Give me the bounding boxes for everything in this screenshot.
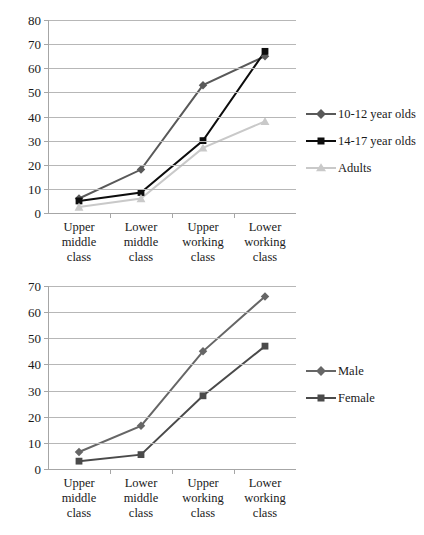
x-category-label: Lowerworkingclass: [234, 476, 296, 520]
x-tick: [172, 469, 173, 474]
gridline: [48, 165, 296, 166]
x-category-label-line: working: [234, 491, 296, 506]
gridline: [48, 286, 296, 287]
x-category-label-line: class: [110, 506, 172, 521]
data-point-marker: [75, 448, 84, 457]
x-axis-labels-top: UppermiddleclassLowermiddleclassUpperwor…: [48, 220, 296, 264]
x-tick: [172, 213, 173, 218]
legend-marker-diamond-icon: [316, 109, 326, 119]
legend-marker-triangle-icon: [316, 163, 326, 171]
legend-label: Adults: [338, 161, 371, 176]
series-line: [79, 296, 265, 452]
legend-item[interactable]: Female: [306, 391, 375, 405]
data-point-marker: [138, 451, 145, 458]
legend-marker-square-icon: [318, 138, 325, 145]
series-line: [79, 56, 265, 198]
x-category-label-line: Upper: [172, 476, 234, 491]
data-point-marker: [76, 458, 83, 465]
gridline: [48, 189, 296, 190]
y-axis-line: [48, 286, 49, 469]
legend-item[interactable]: 10-12 year olds: [306, 107, 416, 121]
x-category-label-line: Lower: [234, 476, 296, 491]
x-category-label-line: class: [234, 250, 296, 265]
x-category-label-line: class: [48, 250, 110, 265]
gridline: [48, 417, 296, 418]
chart-gender: 706050403020100 UppermiddleclassLowermid…: [0, 268, 424, 535]
y-axis-line: [48, 20, 49, 213]
legend-item[interactable]: Adults: [306, 161, 416, 175]
legend-swatch: [306, 107, 336, 121]
gridline: [48, 391, 296, 392]
x-category-label-line: Lower: [110, 220, 172, 235]
x-category-label-line: Lower: [110, 476, 172, 491]
x-category-label: Upperworkingclass: [172, 476, 234, 520]
x-category-label: Lowerworkingclass: [234, 220, 296, 264]
plot-area-bottom: [48, 286, 296, 469]
x-category-label: Uppermiddleclass: [48, 476, 110, 520]
legend-swatch: [306, 391, 336, 405]
x-category-label-line: class: [48, 506, 110, 521]
legend-top: 10-12 year olds14-17 year oldsAdults: [306, 107, 416, 188]
legend-swatch: [306, 364, 336, 378]
data-point-marker: [262, 48, 269, 55]
gridline: [48, 141, 296, 142]
x-category-label: Upperworkingclass: [172, 220, 234, 264]
x-category-label-line: middle: [110, 235, 172, 250]
gridline: [48, 44, 296, 45]
legend-marker-diamond-icon: [316, 366, 326, 376]
legend-label: 14-17 year olds: [338, 134, 416, 149]
y-tick: [44, 213, 48, 214]
x-tick: [234, 469, 235, 474]
legend-label: Female: [338, 391, 375, 406]
x-category-label: Uppermiddleclass: [48, 220, 110, 264]
legend-bottom: MaleFemale: [306, 364, 375, 418]
x-category-label-line: working: [234, 235, 296, 250]
x-category-label-line: working: [172, 235, 234, 250]
x-category-label-line: class: [172, 506, 234, 521]
gridline: [48, 364, 296, 365]
x-category-label: Lowermiddleclass: [110, 476, 172, 520]
legend-item[interactable]: Male: [306, 364, 375, 378]
x-category-label-line: Upper: [48, 476, 110, 491]
x-category-label-line: Upper: [172, 220, 234, 235]
legend-swatch: [306, 134, 336, 148]
data-point-marker: [261, 117, 270, 125]
x-tick: [110, 469, 111, 474]
gridline: [48, 312, 296, 313]
x-tick: [234, 213, 235, 218]
gridline: [48, 68, 296, 69]
x-category-label-line: middle: [110, 491, 172, 506]
legend-swatch: [306, 161, 336, 175]
legend-label: Male: [338, 364, 364, 379]
x-category-label-line: middle: [48, 235, 110, 250]
gridline: [48, 20, 296, 21]
plot-area-top: [48, 20, 296, 213]
legend-label: 10-12 year olds: [338, 107, 416, 122]
x-category-label-line: middle: [48, 491, 110, 506]
x-category-label-line: class: [172, 250, 234, 265]
gridline: [48, 117, 296, 118]
x-tick: [110, 213, 111, 218]
x-category-label-line: Upper: [48, 220, 110, 235]
data-point-marker: [200, 392, 207, 399]
x-category-label: Lowermiddleclass: [110, 220, 172, 264]
x-category-label-line: Lower: [234, 220, 296, 235]
legend-item[interactable]: 14-17 year olds: [306, 134, 416, 148]
data-point-marker: [262, 343, 269, 350]
x-category-label-line: class: [234, 506, 296, 521]
gridline: [48, 92, 296, 93]
x-category-label-line: class: [110, 250, 172, 265]
gridline: [48, 443, 296, 444]
legend-marker-square-icon: [318, 395, 325, 402]
x-category-label-line: working: [172, 491, 234, 506]
series-line: [79, 346, 265, 461]
chart-age-groups: 80706050403020100 UppermiddleclassLowerm…: [0, 0, 424, 268]
y-tick: [44, 469, 48, 470]
x-axis-labels-bottom: UppermiddleclassLowermiddleclassUpperwor…: [48, 476, 296, 520]
gridline: [48, 338, 296, 339]
